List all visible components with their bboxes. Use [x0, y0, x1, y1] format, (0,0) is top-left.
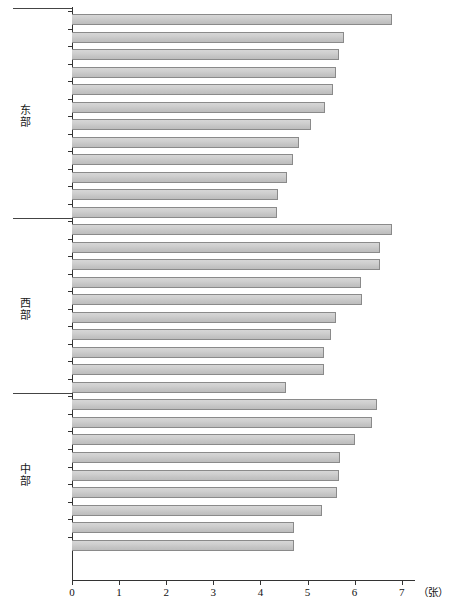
category-tick	[68, 519, 72, 520]
bar	[72, 84, 333, 95]
category-tick	[68, 326, 72, 327]
category-tick	[68, 116, 72, 117]
x-tick-label: 4	[245, 586, 275, 599]
category-tick	[68, 502, 72, 503]
region-separator	[13, 218, 72, 219]
bar	[72, 364, 324, 375]
bar	[72, 434, 355, 445]
category-tick	[68, 239, 72, 240]
category-tick	[68, 151, 72, 152]
x-tick	[402, 580, 403, 585]
x-tick-label: 2	[151, 586, 181, 599]
x-tick	[166, 580, 167, 585]
bar	[72, 399, 377, 410]
bar	[72, 294, 362, 305]
bar	[72, 189, 278, 200]
category-tick	[68, 46, 72, 47]
x-tick	[260, 580, 261, 585]
bar	[72, 172, 287, 183]
region-label-东部: 东部	[14, 104, 36, 128]
category-tick	[68, 81, 72, 82]
x-tick-label: 7	[387, 586, 417, 599]
bar	[72, 522, 294, 533]
category-tick	[68, 169, 72, 170]
category-tick	[68, 309, 72, 310]
x-tick-label: 3	[198, 586, 228, 599]
bar	[72, 540, 294, 551]
bar	[72, 347, 324, 358]
category-tick	[68, 291, 72, 292]
category-tick	[68, 64, 72, 65]
category-tick	[68, 484, 72, 485]
x-tick	[308, 580, 309, 585]
x-axis-unit-label: （张）	[418, 586, 448, 599]
category-tick	[68, 344, 72, 345]
category-tick	[68, 204, 72, 205]
bar	[72, 67, 336, 78]
x-tick-label: 5	[293, 586, 323, 599]
bar	[72, 102, 325, 113]
bar	[72, 382, 286, 393]
bar	[72, 417, 372, 428]
horizontal-bar-chart: 辽宁江苏山东北京上海浙江河北广西福建海南广东天津新疆四川重庆贵州陕西宁夏云南甘肃…	[0, 0, 453, 616]
region-label-中部: 中部	[14, 463, 36, 487]
bar	[72, 329, 331, 340]
category-tick	[68, 361, 72, 362]
bar	[72, 505, 322, 516]
category-tick	[68, 99, 72, 100]
bar	[72, 207, 277, 218]
bar	[72, 242, 380, 253]
x-tick	[355, 580, 356, 585]
value-axis-line	[72, 580, 415, 581]
category-tick	[68, 186, 72, 187]
bar	[72, 154, 293, 165]
category-tick	[68, 29, 72, 30]
bar	[72, 32, 344, 43]
category-tick	[68, 396, 72, 397]
category-tick	[68, 449, 72, 450]
region-separator	[13, 393, 72, 394]
bar	[72, 49, 339, 60]
bar	[72, 119, 311, 130]
x-tick	[119, 580, 120, 585]
bar	[72, 137, 299, 148]
x-tick	[72, 580, 73, 585]
region-separator	[13, 8, 72, 9]
bar	[72, 259, 380, 270]
x-tick	[213, 580, 214, 585]
category-tick	[68, 537, 72, 538]
region-label-西部: 西部	[14, 297, 36, 321]
category-tick	[68, 467, 72, 468]
x-tick-label: 1	[104, 586, 134, 599]
bar	[72, 14, 392, 25]
bar	[72, 277, 361, 288]
category-tick	[68, 11, 72, 12]
category-tick	[68, 414, 72, 415]
x-tick-label: 6	[340, 586, 370, 599]
bar	[72, 470, 339, 481]
bar	[72, 452, 340, 463]
x-tick-label: 0	[57, 586, 87, 599]
category-tick	[68, 379, 72, 380]
bar	[72, 312, 336, 323]
category-tick	[68, 431, 72, 432]
bar	[72, 224, 392, 235]
category-tick	[68, 221, 72, 222]
category-tick	[68, 274, 72, 275]
category-tick	[68, 256, 72, 257]
bar	[72, 487, 337, 498]
category-tick	[68, 134, 72, 135]
